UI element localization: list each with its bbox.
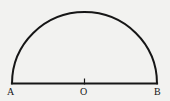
vertex-label-b: B [154,87,161,97]
vertex-label-o: O [80,87,87,97]
semicircle-figure: A O B [0,0,170,101]
vertex-label-a: A [7,87,14,97]
